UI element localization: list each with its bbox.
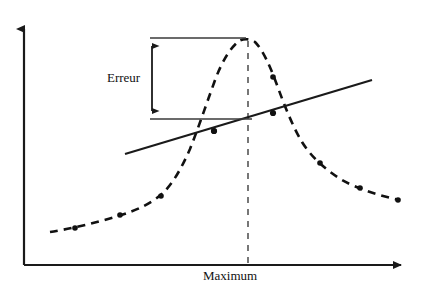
- diagram-canvas: [0, 0, 421, 293]
- curve-marker: [395, 197, 401, 203]
- axis-group: [24, 29, 401, 265]
- curve-marker: [72, 225, 78, 231]
- curve-marker: [270, 74, 276, 80]
- peak-curve: [50, 39, 400, 232]
- curve-marker: [357, 185, 363, 191]
- curve-marker: [117, 212, 123, 218]
- error-label: Erreur: [107, 71, 140, 84]
- curve-marker: [317, 160, 323, 166]
- error-annotation-group: [150, 38, 252, 119]
- intersection-left: [211, 128, 217, 134]
- peak-curve-markers: [72, 74, 401, 231]
- diagram-figure: Erreur Maximum: [0, 0, 421, 293]
- intersection-right: [270, 110, 276, 116]
- peak-curve-group: [50, 39, 401, 232]
- curve-marker: [158, 193, 164, 199]
- maximum-axis-label: Maximum: [203, 269, 257, 282]
- intersection-markers: [211, 110, 276, 134]
